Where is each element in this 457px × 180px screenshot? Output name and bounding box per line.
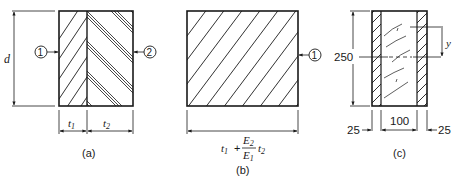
dimension-d-label: d [4,52,11,66]
dimension-y-label: y [445,37,451,49]
dimension-right-flange-label: 25 [438,124,451,136]
hatch-left-flange [365,0,390,120]
svg-text:1: 1 [312,50,318,61]
svg-text:+: + [234,142,240,154]
dimension-t1-label: t1 [68,117,75,131]
svg-text:t1: t1 [221,142,228,156]
caption-c: (c) [393,147,406,159]
panel-c: 250 y 25 100 25 (c) [334,0,451,159]
hatch-right-flange [410,0,435,120]
svg-text:t2: t2 [258,142,265,156]
svg-text:1: 1 [38,47,44,58]
svg-text:E2: E2 [242,134,254,148]
caption-a: (a) [82,147,95,159]
panel-b: 1 t1 + E2 E1 t2 (b) [106,0,391,176]
composite-section-figure: d 1 2 t1 t2 (a) [0,0,457,180]
dimension-web-label: 100 [390,115,409,127]
dimension-left-flange-label: 25 [347,124,360,136]
caption-b: (b) [236,164,249,176]
web-grain-marks [384,24,410,98]
panel-a: d 1 2 t1 t2 (a) [4,0,186,180]
transformed-width-formula: t1 + E2 E1 t2 [221,134,265,163]
dimension-t2-label: t2 [103,117,110,131]
diagram-canvas: d 1 2 t1 t2 (a) [0,0,457,180]
svg-text:E1: E1 [242,149,254,163]
svg-text:2: 2 [147,47,153,58]
dimension-height-label: 250 [334,51,353,63]
section-a-outline [59,11,133,106]
hatch-material-2 [60,0,186,180]
